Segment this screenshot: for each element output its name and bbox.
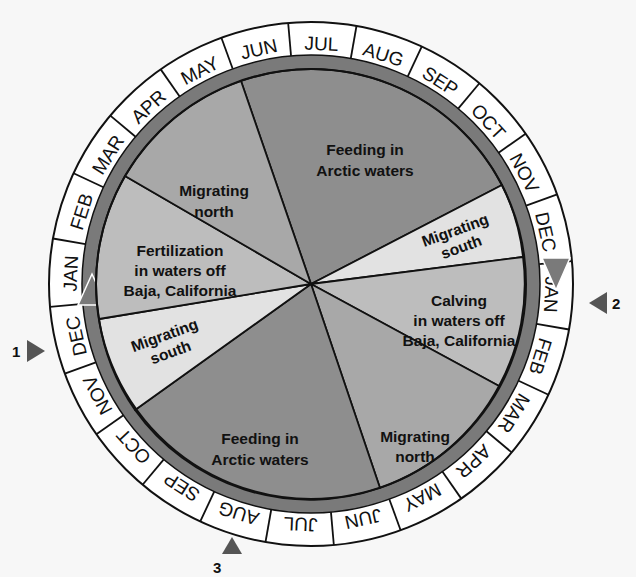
marker-2: 2 <box>589 292 620 314</box>
label-migrating-north-br-line2: north <box>395 448 435 465</box>
marker-3: 3 <box>213 537 242 576</box>
marker-1: 1 <box>12 340 45 362</box>
label-feeding-top-line1: Feeding in <box>326 141 404 158</box>
label-fertilization-line3: Baja, California <box>124 282 237 299</box>
label-feeding-top-line2: Arctic waters <box>316 162 413 179</box>
month-label-jul-top: JUL <box>304 33 339 55</box>
label-migrating-north-tl-line1: Migrating <box>179 182 249 199</box>
label-calving-line1: Calving <box>431 292 487 309</box>
label-calving-line3: Baja, California <box>403 332 516 349</box>
month-label-jan-left: JAN <box>59 255 82 292</box>
label-feeding-bottom-line2: Arctic waters <box>211 451 308 468</box>
marker-2-triangle-icon <box>589 292 607 314</box>
marker-3-number: 3 <box>213 559 221 576</box>
label-feeding-bottom-line1: Feeding in <box>221 430 299 447</box>
marker-3-triangle-icon <box>222 537 242 554</box>
label-fertilization-line1: Fertilization <box>137 242 224 259</box>
migration-cycle-diagram: JUN JUL AUG SEP OCT NOV DEC JAN FEB MAR … <box>0 0 636 577</box>
month-label-jul-bottom: JUL <box>283 513 318 535</box>
label-migrating-north-tl-line2: north <box>194 203 234 220</box>
label-migrating-north-br-line1: Migrating <box>380 428 450 445</box>
marker-1-number: 1 <box>12 343 20 360</box>
marker-1-triangle-icon <box>27 340 45 362</box>
marker-2-number: 2 <box>612 295 620 312</box>
label-calving-line2: in waters off <box>413 312 505 329</box>
label-fertilization-line2: in waters off <box>134 262 226 279</box>
